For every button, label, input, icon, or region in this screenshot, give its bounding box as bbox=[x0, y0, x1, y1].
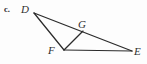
segment-F-E bbox=[64, 50, 132, 51]
vertex-label-f: F bbox=[48, 45, 55, 56]
segment-F-G bbox=[64, 31, 83, 50]
vertex-label-d: D bbox=[21, 4, 29, 15]
geometry-figure-container: c. D G F E bbox=[0, 0, 147, 64]
vertex-label-g: G bbox=[78, 19, 86, 30]
figure-item-label: c. bbox=[4, 5, 10, 14]
vertex-label-e: E bbox=[134, 46, 141, 57]
